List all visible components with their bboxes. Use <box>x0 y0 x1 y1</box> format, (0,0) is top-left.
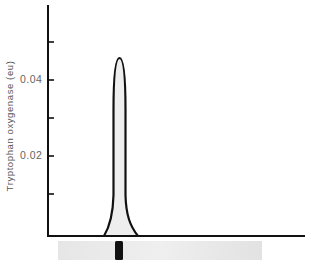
activity-peak <box>104 58 138 236</box>
gel-strip <box>58 241 262 260</box>
gel-band <box>115 241 123 260</box>
chart-canvas <box>0 0 309 261</box>
y-tick-label-0.04: 0.04 <box>20 73 42 85</box>
y-axis-label: Tryptophan oxygenase (eu) <box>4 56 16 196</box>
y-tick-label-0.02: 0.02 <box>20 149 42 161</box>
